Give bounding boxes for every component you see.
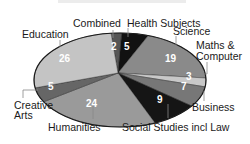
label-education: Education	[22, 28, 69, 40]
value-business: 7	[181, 81, 187, 92]
label-maths-line2: Computer	[196, 50, 243, 62]
value-education: 26	[59, 53, 71, 64]
value-combined: 2	[111, 41, 117, 52]
label-science: Science	[173, 25, 211, 37]
label-humanities: Humanities	[48, 121, 101, 133]
value-creative: 5	[48, 81, 54, 92]
label-combined: Combined	[73, 17, 121, 29]
label-social-studies: Social Studies incl Law	[122, 121, 230, 133]
value-health: 5	[124, 41, 130, 52]
value-maths: 3	[186, 71, 192, 82]
value-science: 19	[165, 53, 177, 64]
value-social: 9	[157, 94, 163, 105]
label-creative-line2: Arts	[14, 109, 33, 121]
label-business: Business	[192, 101, 235, 113]
value-humanities: 24	[86, 98, 98, 109]
pie-chart: Combined Health Subjects Science Maths &…	[0, 0, 250, 144]
